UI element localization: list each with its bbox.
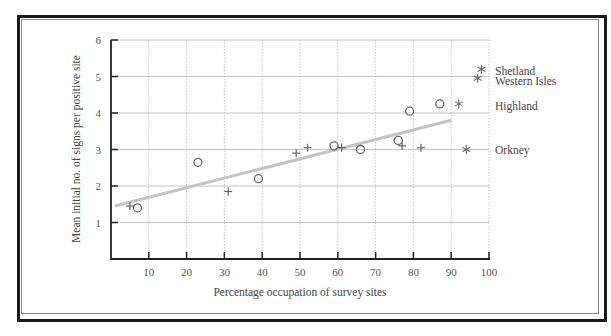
x-tick-label: 20 <box>181 266 193 278</box>
circle-marker <box>436 100 444 108</box>
plus-marker <box>398 142 406 150</box>
asterisk-marker <box>478 65 486 74</box>
axes <box>111 40 490 260</box>
region-label: Highland <box>495 100 538 113</box>
y-axis-title: Mean initial no. of signs per positive s… <box>70 55 83 243</box>
plus-marker <box>417 144 425 152</box>
circle-marker <box>194 158 202 166</box>
region-label: Western Isles <box>495 75 557 87</box>
y-tick-label: 6 <box>96 34 102 46</box>
plus-marker <box>304 144 312 152</box>
y-tick-label: 4 <box>96 107 102 119</box>
x-tick-label: 100 <box>481 266 498 278</box>
circle-marker <box>133 204 141 212</box>
y-tick-label: 3 <box>96 144 102 156</box>
grid-lines <box>111 40 489 259</box>
trendline <box>115 120 451 206</box>
region-labels: ShetlandWestern IslesHighlandOrkney <box>495 65 557 156</box>
region-label: Orkney <box>495 144 530 157</box>
x-tick-label: 30 <box>219 266 231 278</box>
x-tick-label: 70 <box>370 266 382 278</box>
circle-marker <box>406 107 414 115</box>
asterisk-marker <box>455 99 463 108</box>
x-tick-label: 60 <box>332 266 344 278</box>
y-tick-label: 1 <box>96 217 102 229</box>
x-tick-label: 40 <box>257 266 269 278</box>
x-tick-label: 50 <box>295 266 307 278</box>
plus-marker <box>224 187 232 195</box>
plus-marker <box>292 149 300 157</box>
circle-marker <box>394 136 402 144</box>
circle-marker <box>254 175 262 183</box>
scatter-chart: 123456102030405060708090100 ShetlandWest… <box>0 0 611 336</box>
trendline-line <box>115 120 451 206</box>
x-tick-label: 80 <box>408 266 420 278</box>
x-tick-label: 90 <box>446 266 458 278</box>
x-axis-title: Percentage occupation of survey sites <box>213 286 387 299</box>
x-tick-label: 10 <box>143 266 155 278</box>
y-tick-label: 2 <box>96 180 102 192</box>
asterisk-marker <box>474 74 482 83</box>
y-tick-label: 5 <box>96 71 102 83</box>
